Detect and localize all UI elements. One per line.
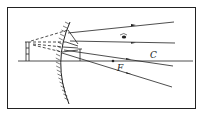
label-c: C	[150, 50, 157, 60]
diagram: C F	[0, 0, 200, 116]
virtual-extensions	[31, 30, 68, 52]
reflected-rays	[62, 22, 175, 87]
label-f: F	[116, 63, 124, 73]
ray-arrows	[126, 24, 136, 74]
object-tower	[25, 42, 31, 61]
ray-diagram: C F	[0, 0, 200, 116]
focal-point-dot	[112, 60, 115, 63]
convex-mirror	[56, 22, 70, 104]
eye-icon	[120, 34, 127, 39]
